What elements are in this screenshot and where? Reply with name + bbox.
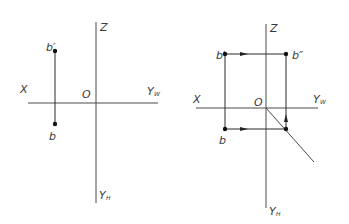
arrow-up-icon <box>284 114 288 122</box>
label-origin: O <box>254 96 263 109</box>
label-x: X <box>192 93 201 106</box>
label-b: b <box>49 130 56 143</box>
arrow-right-icon <box>240 52 248 56</box>
label-b-prime: b′ <box>46 41 56 54</box>
arrow-right-icon <box>240 127 248 131</box>
projection-diagram: Z X O Y W Y H b′ b Z X O Y W Y <box>0 0 349 224</box>
label-yw-subscript: W <box>320 98 327 105</box>
right-panel: Z X O Y W Y H b′ b″ b <box>192 22 327 218</box>
label-b-double-prime: b″ <box>292 49 304 62</box>
label-yh-subscript: H <box>276 210 281 217</box>
label-yw-subscript: W <box>154 90 161 97</box>
label-z: Z <box>269 22 278 35</box>
label-b: b <box>219 134 226 147</box>
label-origin: O <box>82 88 91 101</box>
label-b-prime: b′ <box>216 49 226 62</box>
diagonal-45-helper-line <box>266 108 314 162</box>
point-b <box>53 122 57 126</box>
label-z: Z <box>99 21 108 34</box>
point-diagonal-intersection <box>284 127 288 131</box>
label-yh-subscript: H <box>106 194 111 201</box>
label-x: X <box>19 83 28 96</box>
point-b <box>223 127 227 131</box>
point-b-double-prime <box>284 52 288 56</box>
left-panel: Z X O Y W Y H b′ b <box>19 21 161 203</box>
